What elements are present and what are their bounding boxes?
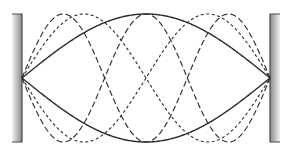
standing-wave-diagram: [0, 0, 287, 155]
harmonic-2-lower-curve: [22, 14, 270, 142]
right-wall: [270, 14, 280, 142]
harmonic-1-upper-curve: [22, 14, 270, 78]
harmonic-1-lower-curve: [22, 78, 270, 142]
harmonic-3-lower-curve: [22, 14, 270, 142]
harmonic-3-upper-curve: [22, 14, 270, 142]
harmonic-2-upper-curve: [22, 14, 270, 142]
left-wall: [12, 14, 22, 142]
wave-modes: [22, 14, 270, 142]
